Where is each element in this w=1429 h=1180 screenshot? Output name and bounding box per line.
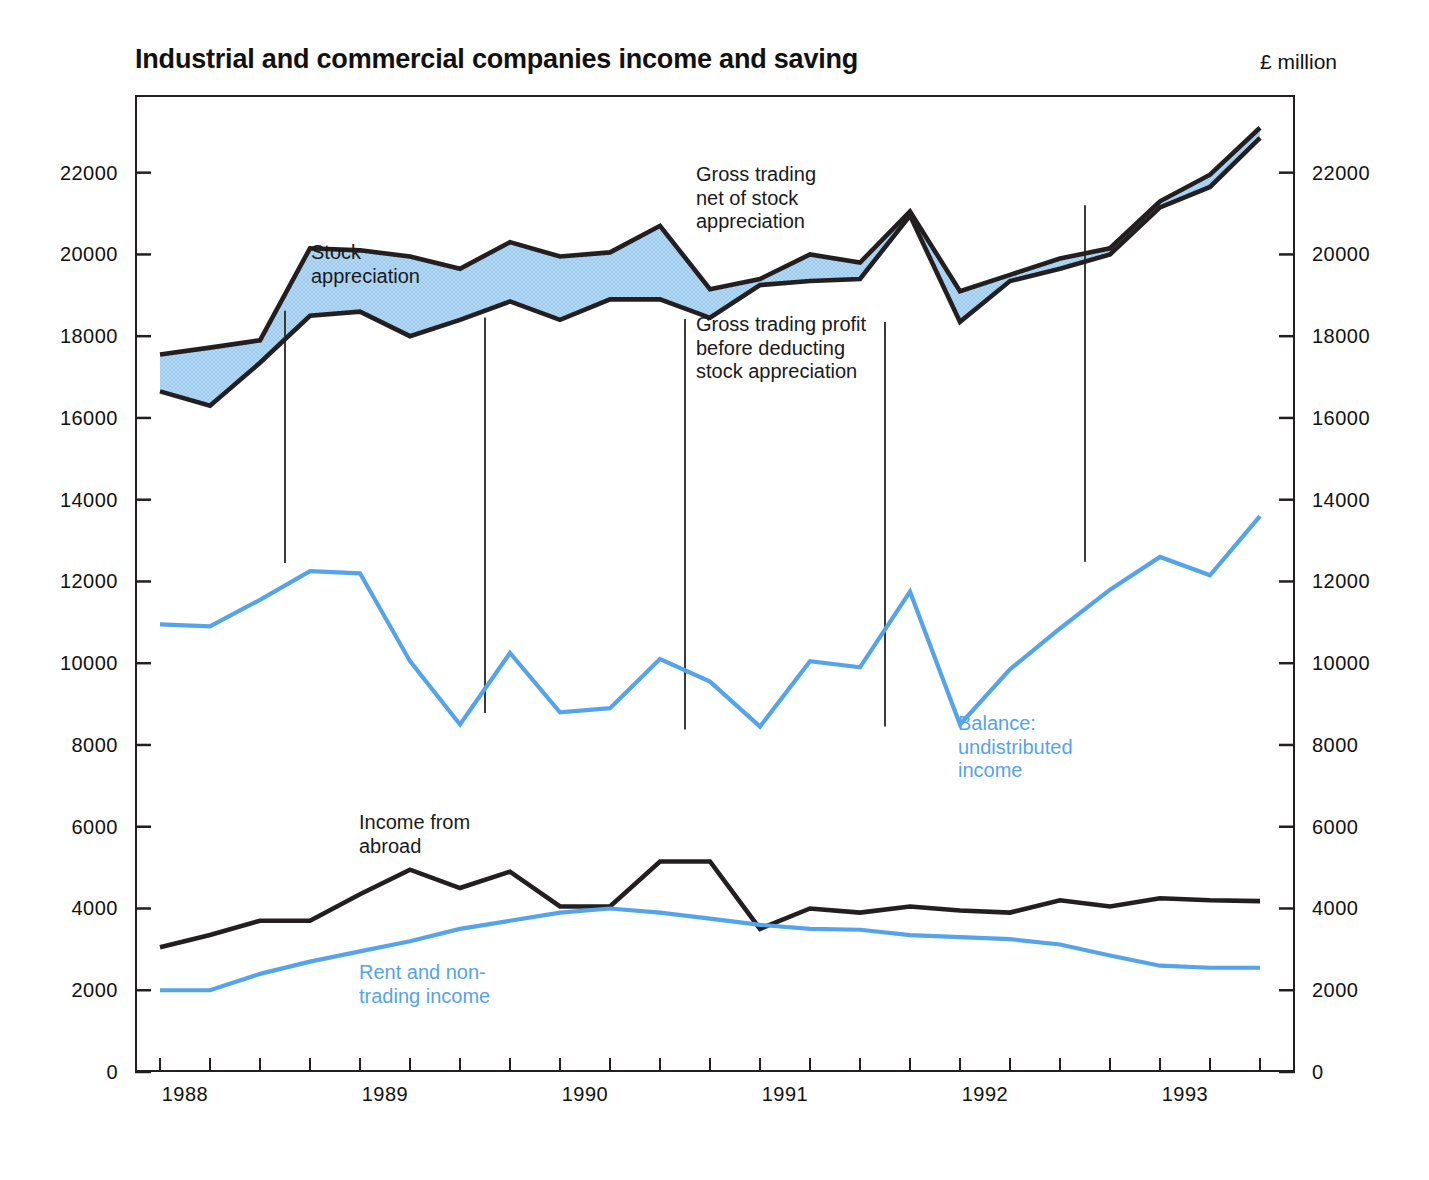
y-axis-tick-label-right: 4000	[1312, 897, 1359, 920]
chart-page: Industrial and commercial companies inco…	[0, 0, 1429, 1180]
y-axis-tick-label-right: 20000	[1312, 243, 1370, 266]
annotation-stock-appreciation: Stock appreciation	[311, 241, 420, 288]
annotation-balance-undistributed: Balance: undistributed income	[958, 712, 1073, 783]
y-axis-tick-label-right: 2000	[1312, 979, 1359, 1002]
annotation-rent-non-trading: Rent and non- trading income	[359, 961, 490, 1008]
y-axis-tick-label-left: 4000	[72, 897, 119, 920]
x-axis-year-label: 1991	[762, 1083, 809, 1106]
y-axis-tick-label-left: 22000	[60, 161, 118, 184]
annotation-gross-trading-profit: Gross trading profit before deducting st…	[696, 313, 866, 384]
x-axis-year-label: 1989	[362, 1083, 409, 1106]
y-axis-tick-label-right: 12000	[1312, 570, 1370, 593]
y-axis-tick-label-right: 22000	[1312, 161, 1370, 184]
y-axis-tick-label-left: 16000	[60, 406, 118, 429]
chart-canvas	[135, 95, 1295, 1072]
y-axis-tick-label-right: 10000	[1312, 652, 1370, 675]
y-axis-tick-label-left: 10000	[60, 652, 118, 675]
y-axis-tick-label-left: 18000	[60, 325, 118, 348]
x-axis-year-label: 1988	[162, 1083, 209, 1106]
y-axis-tick-label-left: 14000	[60, 488, 118, 511]
unit-label: £ million	[1260, 50, 1337, 74]
y-axis-tick-label-left: 20000	[60, 243, 118, 266]
x-axis-year-label: 1990	[562, 1083, 609, 1106]
y-axis-tick-label-right: 0	[1312, 1061, 1324, 1084]
y-axis-left-labels: 0200040006000800010000120001400016000180…	[0, 95, 118, 1072]
page-title: Industrial and commercial companies inco…	[135, 44, 858, 75]
y-axis-tick-label-right: 14000	[1312, 488, 1370, 511]
annotation-income-from-abroad: Income from abroad	[359, 811, 470, 858]
y-axis-tick-label-left: 0	[106, 1061, 118, 1084]
y-axis-tick-label-left: 6000	[72, 815, 119, 838]
y-axis-tick-label-left: 8000	[72, 733, 119, 756]
y-axis-tick-label-right: 16000	[1312, 406, 1370, 429]
y-axis-tick-label-left: 12000	[60, 570, 118, 593]
y-axis-tick-label-right: 8000	[1312, 733, 1359, 756]
x-axis-year-label: 1993	[1162, 1083, 1209, 1106]
y-axis-right-labels: 0200040006000800010000120001400016000180…	[1312, 95, 1429, 1072]
y-axis-tick-label-right: 18000	[1312, 325, 1370, 348]
x-axis-year-label: 1992	[962, 1083, 1009, 1106]
y-axis-tick-label-left: 2000	[72, 979, 119, 1002]
plot-area: Stock appreciation Gross trading net of …	[135, 95, 1295, 1072]
y-axis-tick-label-right: 6000	[1312, 815, 1359, 838]
annotation-gross-trading-net: Gross trading net of stock appreciation	[696, 163, 816, 234]
